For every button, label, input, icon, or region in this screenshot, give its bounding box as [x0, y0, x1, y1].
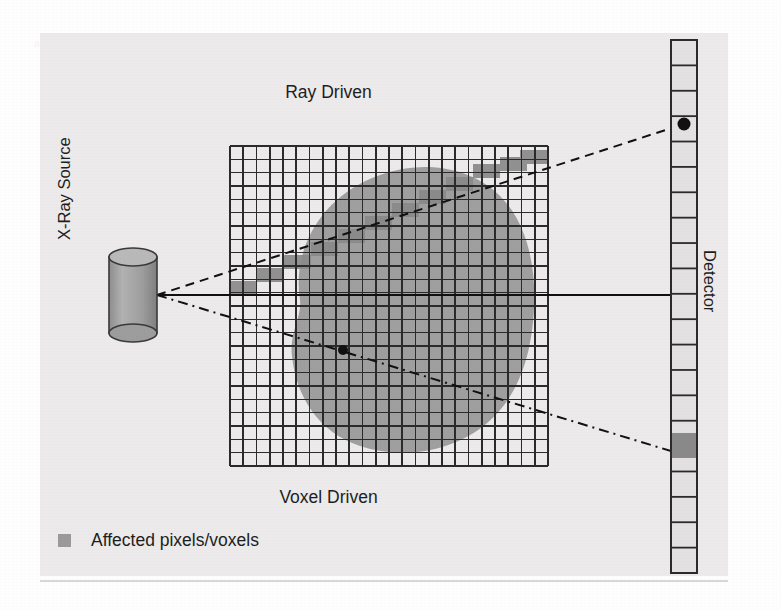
figure-root: a line of faded show-through text from t…: [0, 0, 781, 610]
legend-swatch-icon: [58, 534, 71, 547]
label-voxel-driven: Voxel Driven: [0, 487, 781, 508]
voxel-center-dot: [338, 345, 348, 355]
detector-hit-dot: [678, 118, 691, 131]
legend-label: Affected pixels/voxels: [91, 530, 259, 551]
voxel-grid: [230, 146, 548, 466]
label-xray-source: X-Ray Source: [55, 137, 74, 240]
xray-source-cylinder: [109, 248, 157, 342]
detector-hit-cell: [672, 433, 696, 458]
legend: Affected pixels/voxels: [58, 530, 259, 551]
label-ray-driven: Ray Driven: [0, 82, 781, 103]
label-detector: Detector: [700, 250, 719, 312]
